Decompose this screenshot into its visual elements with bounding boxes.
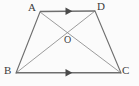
diagonal-ac <box>40 12 121 73</box>
vertex-label-a: A <box>28 2 36 13</box>
vertex-label-d: D <box>97 1 105 12</box>
vertex-label-c: C <box>122 65 129 76</box>
arrow-right-icon-bc <box>66 69 73 76</box>
vertex-label-b: B <box>4 65 11 76</box>
intersection-label-o: O <box>64 35 71 45</box>
geometry-figure: A D B C O <box>0 0 139 86</box>
arrow-right-icon-ad <box>66 8 73 15</box>
